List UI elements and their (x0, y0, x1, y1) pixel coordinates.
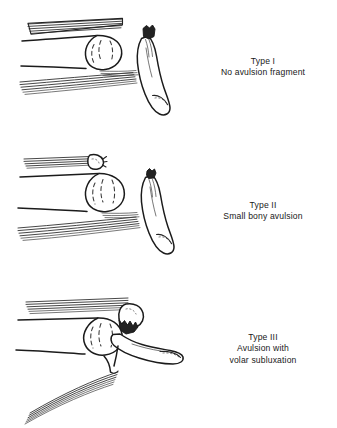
middle-phalanx-dorsal-cortex-type-3 (18, 318, 98, 320)
caption-type-1: Type I No avulsion fragment (193, 56, 333, 79)
flexor-tendon-bundle-type-2 (18, 217, 140, 240)
middle-phalanx-volar-cortex-type-3 (16, 350, 85, 354)
volar-plate-fibers-type-2 (102, 213, 139, 218)
middle-phalanx-head-type-2 (86, 174, 125, 212)
figure-root: Type I No avulsion fragment (0, 0, 337, 428)
retracted-tendon-bundle-type-2 (24, 157, 90, 169)
distal-phalanx-volar-subluxated-type-3 (111, 334, 183, 364)
panel-type-1: Type I No avulsion fragment (0, 0, 337, 143)
distal-phalanx-type-2 (141, 175, 174, 254)
caption-title-type-1: Type I (193, 56, 333, 67)
middle-phalanx-volar-cortex-type-2 (18, 208, 87, 212)
small-bony-fragment-type-2 (88, 155, 107, 170)
middle-phalanx-volar-cortex-type-1 (21, 66, 86, 69)
retracted-tendon-bundle-type-3 (26, 298, 128, 314)
middle-phalanx-dorsal-cortex-type-2 (20, 174, 99, 177)
distal-phalanx-type-1 (137, 36, 170, 115)
caption-type-2: Type II Small bony avulsion (193, 200, 333, 223)
caption-description-type-2: Small bony avulsion (193, 211, 333, 222)
caption-description-type-3-line-1: Avulsion with (193, 343, 333, 354)
illustration-type-1 (0, 0, 210, 143)
middle-phalanx-dorsal-cortex-type-1 (22, 36, 97, 41)
illustration-type-2 (0, 140, 210, 285)
retracted-tendon-bundle-type-1 (28, 18, 123, 34)
caption-description-type-1: No avulsion fragment (193, 67, 333, 78)
large-bony-fragment-type-3 (119, 304, 144, 334)
middle-phalanx-head-type-1 (85, 36, 121, 70)
caption-title-type-3: Type III (193, 332, 333, 343)
panel-type-2: Type II Small bony avulsion (0, 140, 337, 285)
panel-type-3: Type III Avulsion with volar subluxation (0, 280, 337, 428)
illustration-type-3 (0, 280, 210, 428)
caption-description-type-3-line-2: volar subluxation (193, 355, 333, 366)
flexor-tendon-bundle-type-3 (25, 372, 118, 424)
caption-title-type-2: Type II (193, 200, 333, 211)
caption-type-3: Type III Avulsion with volar subluxation (193, 332, 333, 366)
